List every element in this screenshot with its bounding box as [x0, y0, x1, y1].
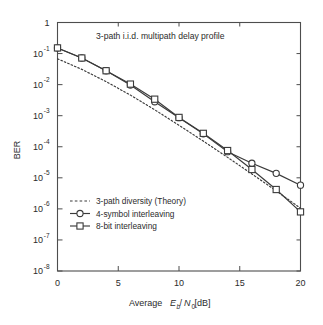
ber-performance-chart: 110-110-210-310-410-510-610-710-8 051015…: [0, 0, 323, 325]
y-tick-mantissa: 10: [33, 80, 43, 90]
data-point-marker: [225, 147, 231, 153]
y-tick-mantissa: 10: [33, 204, 43, 214]
legend-square-marker: [77, 223, 83, 229]
data-point-marker: [200, 130, 206, 136]
y-tick-mantissa: 10: [33, 266, 43, 276]
data-point-marker: [297, 209, 303, 215]
y-tick-exponent: -1: [44, 45, 50, 52]
x-axis-title-unit: [dB]: [195, 298, 211, 308]
data-point-marker: [54, 45, 60, 51]
y-tick-exponent: -5: [44, 169, 50, 176]
y-tick-mantissa: 1: [44, 18, 49, 28]
figure-container: 110-110-210-310-410-510-610-710-8 051015…: [0, 0, 323, 325]
y-axis-title-text: BER: [12, 140, 22, 159]
y-tick-mantissa: 10: [33, 111, 43, 121]
x-tick-label: 10: [174, 278, 184, 288]
legend-item-2: 8-bit interleaving: [70, 221, 157, 231]
data-point-marker: [297, 182, 303, 188]
y-tick-label: 1: [44, 18, 49, 28]
y-tick-mantissa: 10: [33, 49, 43, 59]
x-tick-label: 20: [295, 278, 305, 288]
legend-circle-marker: [77, 210, 83, 216]
plot-title: 3-path i.i.d. multipath delay profile: [96, 31, 225, 41]
y-tick-exponent: -3: [44, 107, 50, 114]
y-tick-mantissa: 10: [33, 235, 43, 245]
data-point-marker: [152, 96, 158, 102]
legend-label: 8-bit interleaving: [96, 221, 157, 231]
data-point-marker: [273, 186, 279, 192]
y-tick-exponent: -8: [44, 263, 50, 270]
legend-label: 4-symbol interleaving: [96, 209, 175, 219]
legend-label: 3-path diversity (Theory): [96, 196, 186, 206]
y-axis-title: BER: [12, 140, 22, 159]
x-axis-title-prefix: Average: [129, 298, 162, 308]
data-point-marker: [127, 81, 133, 87]
y-tick-exponent: -7: [44, 232, 50, 239]
y-tick-exponent: -4: [44, 138, 50, 145]
data-point-marker: [249, 166, 255, 172]
y-tick-exponent: -6: [44, 200, 50, 207]
x-axis-title-n0-symbol: N: [184, 298, 191, 308]
y-tick-mantissa: 10: [33, 142, 43, 152]
x-tick-label: 0: [55, 278, 60, 288]
x-tick-label: 15: [235, 278, 245, 288]
x-tick-label: 5: [116, 278, 121, 288]
data-point-marker: [273, 170, 279, 176]
data-point-marker: [176, 114, 182, 120]
data-point-marker: [249, 160, 255, 166]
data-point-marker: [79, 55, 85, 61]
y-tick-mantissa: 10: [33, 173, 43, 183]
data-point-marker: [103, 68, 109, 74]
y-tick-exponent: -2: [44, 76, 50, 83]
